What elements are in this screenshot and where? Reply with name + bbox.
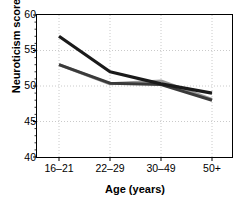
data-series-group [59,36,212,100]
plot-frame [37,15,233,158]
plot-area [0,0,246,202]
grid-lines [37,15,232,157]
chart-figure: Neuroticism score 60 55 50 45 40 16–21 2… [0,0,246,202]
data-series-line [59,65,212,101]
